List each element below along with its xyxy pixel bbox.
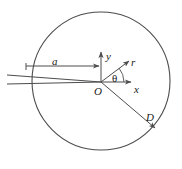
incident-ray-lower <box>7 82 101 84</box>
incident-ray-upper <box>7 75 101 82</box>
label-distance: D <box>146 112 154 123</box>
label-r-vector: r <box>131 57 135 68</box>
diagram-canvas <box>0 0 182 169</box>
label-theta-angle: θ <box>112 73 117 84</box>
label-origin: O <box>94 86 102 97</box>
label-x-axis: x <box>134 84 139 95</box>
label-impact-parameter: a <box>52 56 58 67</box>
figure-container: a y r θ x O D <box>0 0 182 169</box>
theta-arc <box>119 68 124 82</box>
label-y-axis: y <box>106 51 111 62</box>
